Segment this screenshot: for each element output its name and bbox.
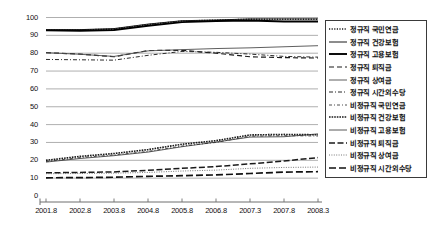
legend-line-swatch-icon	[328, 49, 348, 59]
legend-item-label: 비정규직 퇴직금	[350, 138, 399, 148]
y-tick-label: 80	[16, 48, 38, 57]
legend-item-10: 비정규직 상여금	[326, 149, 426, 162]
chart-container: 1009080706050403020100 2001.82002.82003.…	[0, 0, 429, 228]
legend-line-swatch-icon	[328, 24, 348, 34]
series-line-8	[46, 134, 318, 162]
legend-line-swatch-icon	[328, 150, 348, 160]
legend-line-swatch-icon	[328, 87, 348, 97]
legend-item-3: 정규직 퇴직금	[326, 61, 426, 74]
y-tick-label: 50	[16, 102, 38, 111]
legend-item-label: 비정규직 시간외수당	[350, 163, 412, 173]
legend-item-0: 정규직 국민연금	[326, 23, 426, 36]
y-tick-label: 30	[16, 137, 38, 146]
legend-item-label: 정규직 시간외수당	[350, 87, 405, 97]
legend-item-8: 비정규직 고용보험	[326, 124, 426, 137]
legend-item-label: 비정규직 건강보험	[350, 112, 405, 122]
legend-item-5: 정규직 시간외수당	[326, 86, 426, 99]
legend-item-label: 정규직 퇴직금	[350, 62, 392, 72]
legend-item-7: 비정규직 건강보험	[326, 111, 426, 124]
y-tick-label: 70	[16, 66, 38, 75]
legend-item-label: 비정규직 고용보험	[350, 125, 405, 135]
legend-item-label: 정규직 건강보험	[350, 37, 399, 47]
legend-line-swatch-icon	[328, 75, 348, 85]
legend-item-label: 정규직 고용보험	[350, 49, 399, 59]
legend-line-swatch-icon	[328, 100, 348, 110]
series-line-11	[46, 172, 318, 178]
legend-item-6: 비정규직 국민연금	[326, 99, 426, 112]
legend-item-11: 비정규직 시간외수당	[326, 162, 426, 175]
y-tick-label: 100	[16, 13, 38, 22]
legend-line-swatch-icon	[328, 163, 348, 173]
x-tick-label: 2007.3	[233, 206, 267, 215]
legend-item-label: 비정규직 국민연금	[350, 100, 405, 110]
legend-item-label: 비정규직 상여금	[350, 150, 399, 160]
legend-item-label: 정규직 국민연금	[350, 24, 399, 34]
x-tick-label: 2008.3	[301, 206, 335, 215]
legend-item-4: 정규직 상여금	[326, 73, 426, 86]
y-tick-label: 10	[16, 173, 38, 182]
y-tick-label: 40	[16, 120, 38, 129]
legend-line-swatch-icon	[328, 125, 348, 135]
series-line-7	[46, 134, 318, 160]
legend-item-9: 비정규직 퇴직금	[326, 136, 426, 149]
y-tick-label: 20	[16, 155, 38, 164]
y-tick-label: 0	[16, 191, 38, 200]
x-tick-label: 2006.8	[199, 206, 233, 215]
x-tick-label: 2003.8	[97, 206, 131, 215]
legend-item-1: 정규직 건강보험	[326, 36, 426, 49]
series-line-9	[46, 158, 318, 173]
legend-line-swatch-icon	[328, 138, 348, 148]
legend-item-label: 정규직 상여금	[350, 75, 392, 85]
x-tick-label: 2001.8	[29, 206, 63, 215]
y-tick-label: 90	[16, 30, 38, 39]
x-tick-label: 2005.8	[165, 206, 199, 215]
legend-line-swatch-icon	[328, 37, 348, 47]
x-tick-label: 2004.8	[131, 206, 165, 215]
gridlines	[46, 18, 318, 197]
data-series-group	[46, 19, 318, 178]
x-tick-label: 2002.8	[63, 206, 97, 215]
chart-legend: 정규직 국민연금정규직 건강보험정규직 고용보험정규직 퇴직금정규직 상여금정규…	[325, 20, 427, 178]
x-axis	[40, 199, 322, 206]
series-line-5	[46, 51, 318, 60]
legend-line-swatch-icon	[328, 112, 348, 122]
legend-item-2: 정규직 고용보험	[326, 48, 426, 61]
legend-line-swatch-icon	[328, 62, 348, 72]
x-tick-label: 2007.8	[267, 206, 301, 215]
y-tick-label: 60	[16, 84, 38, 93]
